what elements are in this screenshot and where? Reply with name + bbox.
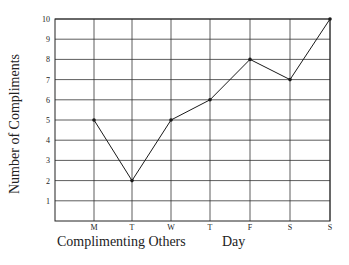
x-tick-label: F xyxy=(248,223,253,232)
y-tick-label: 8 xyxy=(46,55,50,64)
y-tick-label: 9 xyxy=(46,35,50,44)
data-point xyxy=(92,118,96,122)
x-axis-label-left: Complimenting Others xyxy=(57,234,186,249)
y-tick-label: 7 xyxy=(46,76,50,85)
y-tick-label: 2 xyxy=(46,177,50,186)
line-chart: 12345678910 MTWTFSS Number of Compliment… xyxy=(0,0,349,265)
y-tick-label: 5 xyxy=(46,116,50,125)
x-axis-label-right: Day xyxy=(222,234,245,249)
y-tick-label: 1 xyxy=(46,197,50,206)
x-tick-label: T xyxy=(130,223,135,232)
data-point xyxy=(248,58,252,62)
x-tick-label: T xyxy=(208,223,213,232)
y-tick-label: 3 xyxy=(46,156,50,165)
data-point xyxy=(169,118,173,122)
y-axis-label: Number of Compliments xyxy=(7,54,22,194)
x-tick-label: S xyxy=(288,223,292,232)
data-point xyxy=(288,78,292,82)
x-tick-label: M xyxy=(90,223,97,232)
data-point xyxy=(328,17,332,21)
y-tick-label: 10 xyxy=(42,15,50,24)
x-tick-label: W xyxy=(167,223,175,232)
chart-grid xyxy=(55,19,330,221)
y-tick-label: 4 xyxy=(46,136,50,145)
data-point xyxy=(130,179,134,183)
x-tick-label: S xyxy=(328,223,332,232)
x-axis-ticks: MTWTFSS xyxy=(90,223,332,232)
y-tick-label: 6 xyxy=(46,96,50,105)
y-axis-ticks: 12345678910 xyxy=(42,15,50,206)
data-point xyxy=(208,98,212,102)
